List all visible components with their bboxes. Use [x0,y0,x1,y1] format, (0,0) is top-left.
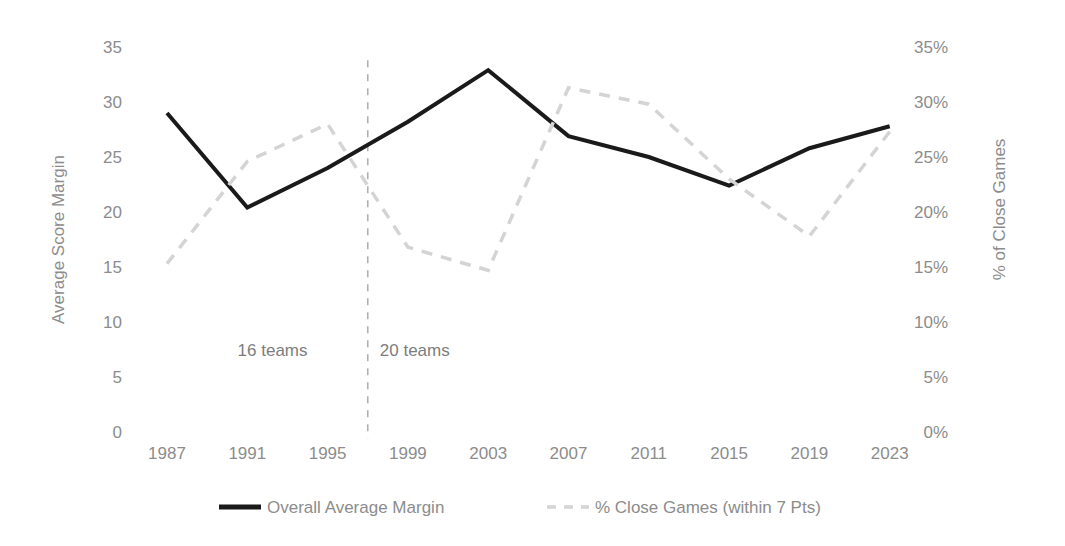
right-axis-tick: 30% [914,93,948,112]
x-axis-tick: 1987 [148,444,186,463]
legend-label: % Close Games (within 7 Pts) [595,498,821,517]
chart-container: 05101520253035 0%5%10%15%20%25%30%35% 19… [0,0,1065,546]
x-axis-tick: 1999 [389,444,427,463]
left-axis-title: Average Score Margin [49,155,68,324]
left-axis-tick: 15 [103,258,122,277]
x-axis-tick: 2003 [469,444,507,463]
x-axis-tick: 2007 [550,444,588,463]
left-axis-tick: 20 [103,203,122,222]
chart-background [0,0,1065,546]
right-axis-tick: 35% [914,38,948,57]
left-axis-tick: 30 [103,93,122,112]
right-axis-tick: 15% [914,258,948,277]
right-axis-title: % of Close Games [990,139,1009,281]
left-axis-tick: 5 [113,368,122,387]
right-axis-tick: 5% [923,368,948,387]
x-axis-tick: 1991 [228,444,266,463]
annotation-label: 16 teams [238,341,308,360]
right-axis-tick: 20% [914,203,948,222]
left-axis-tick: 0 [113,423,122,442]
right-axis-tick: 10% [914,313,948,332]
x-axis-tick: 2011 [631,444,668,463]
right-axis-tick: 25% [914,148,948,167]
legend-label: Overall Average Margin [267,498,444,517]
x-axis-tick: 2023 [871,444,909,463]
left-axis-tick: 10 [103,313,122,332]
left-axis-tick: 25 [103,148,122,167]
right-axis-tick: 0% [923,423,948,442]
line-chart: 05101520253035 0%5%10%15%20%25%30%35% 19… [0,0,1065,546]
left-axis-tick: 35 [103,38,122,57]
x-axis-tick: 2019 [790,444,828,463]
annotation-label: 20 teams [380,341,450,360]
x-axis-tick: 1995 [309,444,347,463]
x-axis-tick: 2015 [710,444,748,463]
